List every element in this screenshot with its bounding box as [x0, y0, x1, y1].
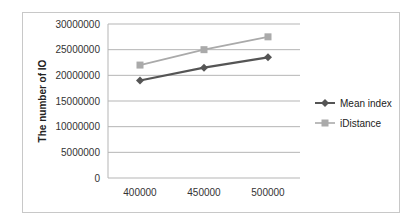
series-idistance — [137, 33, 272, 68]
legend-label: iDistance — [340, 118, 382, 129]
y-tick-label: 20000000 — [56, 70, 101, 81]
diamond-marker-icon — [264, 53, 272, 61]
y-tick-label: 10000000 — [56, 121, 101, 132]
y-tick-label: 25000000 — [56, 44, 101, 55]
y-tick-label: 0 — [94, 173, 100, 184]
series-lines — [136, 33, 272, 84]
square-marker-icon — [137, 62, 144, 69]
diamond-marker-icon — [200, 64, 208, 72]
y-tick-label: 30000000 — [56, 19, 101, 30]
legend-label: Mean index — [340, 98, 392, 109]
y-tick-label: 15000000 — [56, 96, 101, 107]
x-axis-ticks: 400000450000500000 — [123, 187, 285, 198]
y-tick-label: 5000000 — [61, 147, 100, 158]
line-chart: 0500000010000000150000002000000025000000… — [0, 0, 415, 224]
series-mean-index — [136, 53, 272, 84]
x-tick-label: 450000 — [187, 187, 221, 198]
y-axis-title: The number of IO — [37, 59, 48, 142]
y-axis-ticks: 0500000010000000150000002000000025000000… — [56, 19, 101, 184]
legend: Mean indexiDistance — [315, 98, 392, 129]
diamond-marker-icon — [321, 99, 329, 107]
legend-item: iDistance — [315, 118, 382, 129]
square-marker-icon — [265, 33, 272, 40]
x-tick-label: 500000 — [251, 187, 285, 198]
square-marker-icon — [201, 46, 208, 53]
x-tick-label: 400000 — [123, 187, 157, 198]
legend-item: Mean index — [315, 98, 392, 109]
diamond-marker-icon — [136, 76, 144, 84]
square-marker-icon — [322, 120, 329, 127]
